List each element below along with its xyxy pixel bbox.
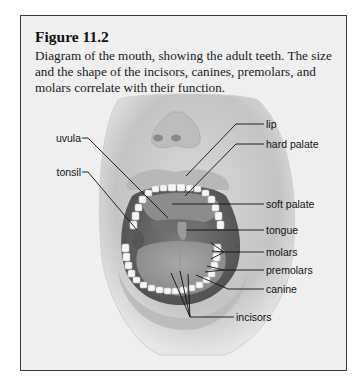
label-molars: molars (266, 246, 298, 258)
tonsil-shape (132, 231, 144, 249)
label-premolars: premolars (266, 264, 313, 276)
mouth-diagram: uvula tonsil lip hard palate soft palate… (0, 0, 364, 390)
label-tongue: tongue (266, 224, 298, 236)
label-hard-palate: hard palate (266, 138, 319, 150)
nostril-right (171, 135, 181, 142)
nostril-left (153, 135, 163, 142)
label-canine: canine (266, 283, 297, 295)
label-uvula: uvula (56, 132, 81, 144)
label-lip: lip (266, 118, 277, 130)
label-soft-palate: soft palate (266, 198, 315, 210)
label-incisors: incisors (236, 311, 272, 323)
label-tonsil: tonsil (56, 166, 81, 178)
